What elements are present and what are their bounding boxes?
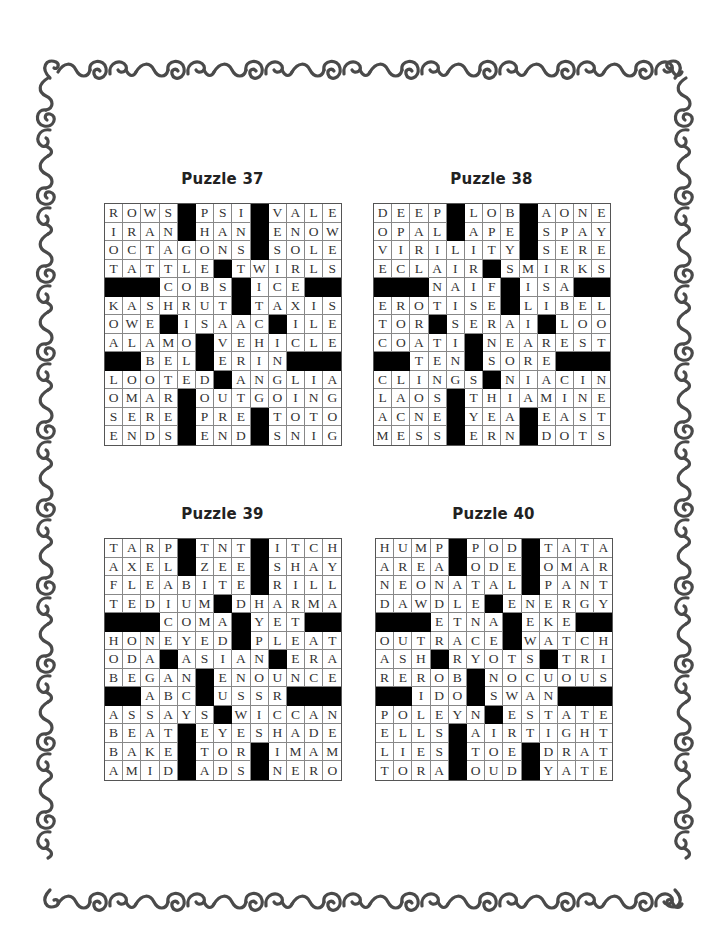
letter-cell: C — [374, 371, 392, 390]
letter-cell: T — [540, 539, 558, 558]
letter-cell: O — [305, 223, 323, 242]
black-square — [178, 558, 196, 577]
letter-cell: G — [141, 669, 159, 688]
letter-cell: R — [178, 297, 196, 316]
letter-cell: R — [305, 650, 323, 669]
letter-cell: R — [141, 539, 159, 558]
letter-cell: O — [376, 632, 394, 651]
letter-cell: A — [576, 558, 594, 577]
letter-cell: D — [431, 687, 449, 706]
letter-cell: S — [538, 278, 556, 297]
letter-cell: O — [394, 761, 412, 780]
letter-cell: N — [467, 613, 485, 632]
letter-cell: E — [105, 426, 123, 445]
letter-cell: A — [305, 743, 323, 762]
letter-cell: M — [287, 743, 305, 762]
letter-cell: A — [538, 204, 556, 223]
letter-cell: S — [269, 426, 287, 445]
letter-cell: U — [576, 669, 594, 688]
letter-cell: E — [374, 297, 392, 316]
letter-cell: O — [287, 408, 305, 427]
letter-cell: E — [538, 408, 556, 427]
letter-cell: L — [305, 334, 323, 353]
letter-cell: I — [251, 352, 269, 371]
letter-cell: D — [374, 204, 392, 223]
letter-cell: T — [160, 724, 178, 743]
letter-cell: E — [323, 669, 341, 688]
black-square — [392, 278, 410, 297]
letter-cell: B — [196, 278, 214, 297]
letter-cell: I — [520, 278, 538, 297]
letter-cell: I — [178, 315, 196, 334]
letter-cell: C — [287, 334, 305, 353]
letter-cell: M — [323, 743, 341, 762]
letter-cell: R — [214, 408, 232, 427]
letter-cell: A — [558, 706, 576, 725]
letter-cell: I — [287, 389, 305, 408]
letter-cell: E — [392, 426, 410, 445]
letter-cell: R — [410, 315, 428, 334]
letter-cell: T — [232, 389, 250, 408]
letter-cell: O — [558, 669, 576, 688]
letter-cell: A — [501, 315, 519, 334]
letter-cell: C — [178, 687, 196, 706]
letter-cell: L — [394, 724, 412, 743]
letter-cell: A — [594, 539, 612, 558]
letter-cell: S — [196, 315, 214, 334]
letter-cell: S — [410, 426, 428, 445]
crossword-grid: HUMPPODTATAAREAODEOMARNEONATALPANTDAWDLE… — [375, 538, 613, 781]
letter-cell: I — [251, 706, 269, 725]
letter-cell: T — [592, 334, 610, 353]
black-square — [178, 724, 196, 743]
letter-cell: E — [323, 204, 341, 223]
black-square — [503, 613, 521, 632]
black-square — [178, 539, 196, 558]
letter-cell: G — [447, 371, 465, 390]
letter-cell: L — [392, 371, 410, 390]
letter-cell: A — [556, 278, 574, 297]
letter-cell: E — [540, 595, 558, 614]
letter-cell: A — [141, 334, 159, 353]
border-top — [58, 61, 682, 78]
letter-cell: I — [287, 315, 305, 334]
letter-cell: Y — [178, 706, 196, 725]
letter-cell: D — [305, 724, 323, 743]
letter-cell: S — [232, 761, 250, 780]
black-square — [251, 539, 269, 558]
black-square — [520, 426, 538, 445]
letter-cell: R — [287, 595, 305, 614]
black-square — [485, 706, 503, 725]
letter-cell: R — [558, 743, 576, 762]
letter-cell: H — [483, 389, 501, 408]
letter-cell: D — [160, 761, 178, 780]
letter-cell: T — [105, 595, 123, 614]
letter-cell: A — [160, 706, 178, 725]
letter-cell: Y — [214, 724, 232, 743]
letter-cell: A — [287, 724, 305, 743]
letter-cell: G — [576, 595, 594, 614]
letter-cell: I — [447, 297, 465, 316]
letter-cell: N — [123, 426, 141, 445]
letter-cell: N — [251, 650, 269, 669]
black-square — [520, 223, 538, 242]
letter-cell: I — [574, 371, 592, 390]
letter-cell: E — [178, 371, 196, 390]
crossword-grid: DEEPLOBAONEOPALAPESPAYVIRILITYSEREECLAIR… — [373, 203, 611, 446]
letter-cell: T — [251, 297, 269, 316]
black-square — [556, 352, 574, 371]
letter-cell: R — [269, 576, 287, 595]
letter-cell: E — [323, 724, 341, 743]
black-square — [251, 204, 269, 223]
black-square — [410, 278, 428, 297]
letter-cell: D — [232, 595, 250, 614]
letter-cell: O — [485, 539, 503, 558]
letter-cell: A — [558, 761, 576, 780]
letter-cell: N — [141, 632, 159, 651]
letter-cell: T — [412, 632, 430, 651]
letter-cell: O — [431, 669, 449, 688]
letter-cell: W — [522, 632, 540, 651]
letter-cell: D — [485, 558, 503, 577]
letter-cell: L — [429, 223, 447, 242]
letter-cell: R — [556, 260, 574, 279]
letter-cell: S — [105, 408, 123, 427]
